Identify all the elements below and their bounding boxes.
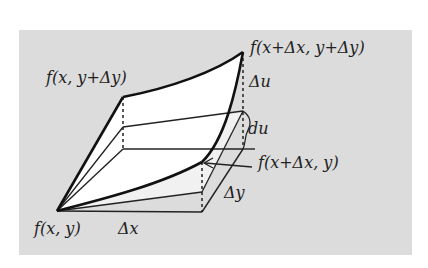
label-f-x-plus-dx-y: f(x+Δx, y): [258, 155, 339, 171]
label-f-x-y: f(x, y): [34, 221, 81, 237]
label-f-x-plus-dx-y-plus-dy: f(x+Δx, y+Δy): [250, 40, 365, 56]
arrow-to-point: [204, 158, 252, 168]
label-f-x-y-plus-dy: f(x, y+Δy): [46, 70, 127, 86]
label-delta-y: Δy: [224, 185, 245, 201]
label-du: du: [248, 121, 269, 137]
label-delta-x: Δx: [118, 221, 139, 237]
label-delta-u: Δu: [249, 74, 271, 90]
